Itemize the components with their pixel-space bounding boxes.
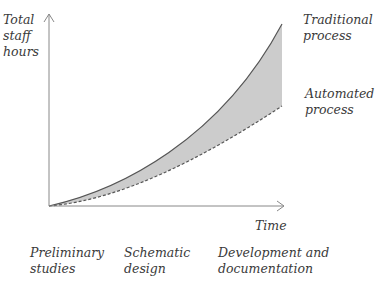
automated-process-label: Automated process — [305, 86, 374, 118]
phase-label-preliminary: Preliminary studies — [30, 245, 104, 277]
x-axis-label: Time — [255, 218, 287, 234]
phase-label-schematic: Schematic design — [124, 245, 190, 277]
traditional-process-label: Traditional process — [303, 12, 373, 44]
y-axis-label: Total staff hours — [3, 12, 39, 60]
savings-area — [49, 24, 282, 206]
phase-label-development: Development and documentation — [218, 245, 329, 277]
